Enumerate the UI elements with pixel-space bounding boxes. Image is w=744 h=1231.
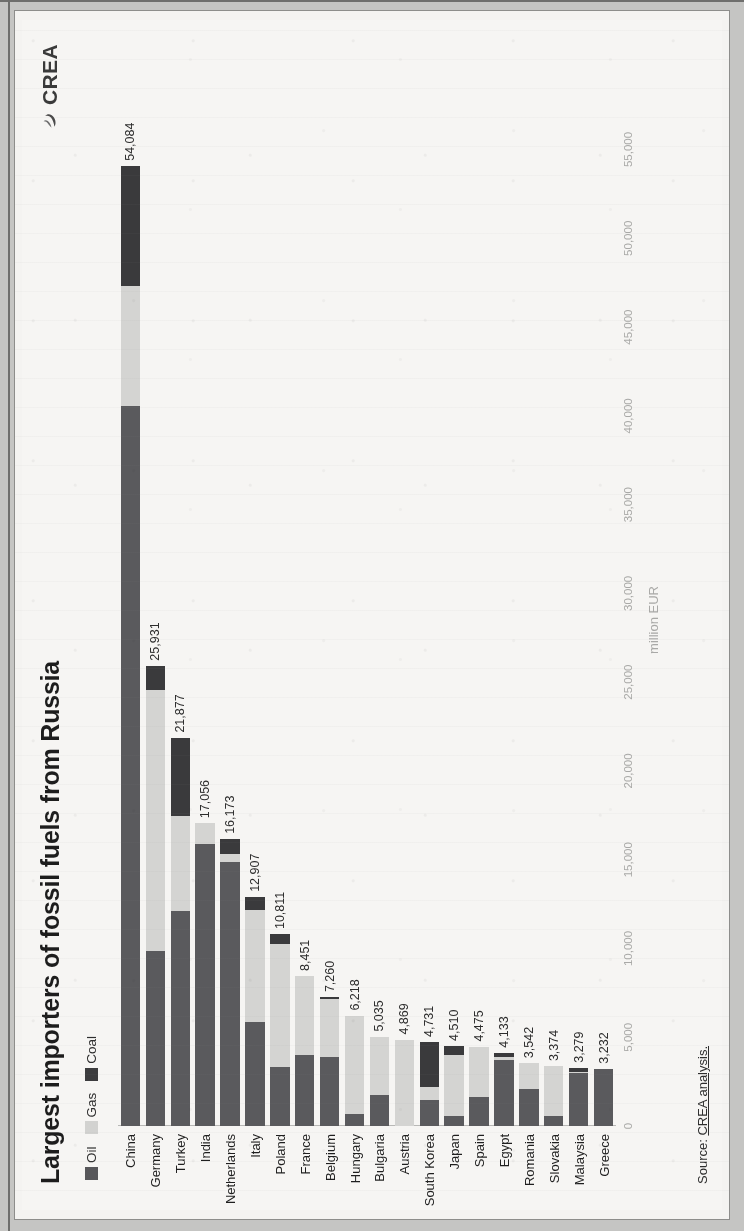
bar-row[interactable]: Malaysia3,279: [569, 1068, 588, 1126]
legend-label-oil: Oil: [84, 1147, 99, 1164]
bar-value-label: 3,279: [572, 1032, 586, 1063]
bar-segment-oil: [420, 1100, 439, 1126]
chart-legend: Oil Gas Coal: [84, 1029, 99, 1180]
axis-tick-label: 25,000: [622, 665, 634, 700]
bar-segment-gas: [220, 854, 239, 863]
category-label: India: [198, 1134, 213, 1162]
source-prefix: Source:: [695, 1136, 710, 1184]
plot-area: China54,084Germany25,931Turkey21,877Indi…: [118, 114, 616, 1126]
bar-value-label: 25,931: [148, 622, 162, 660]
category-label: Turkey: [173, 1134, 188, 1173]
axis-tick-label: 20,000: [622, 753, 634, 788]
category-label: Austria: [397, 1134, 412, 1174]
bar-row[interactable]: South Korea4,731: [420, 1042, 439, 1126]
page-title: Largest importers of fossil fuels from R…: [36, 661, 65, 1184]
bar-row[interactable]: Slovakia3,374: [544, 1066, 563, 1126]
category-label: Greece: [596, 1134, 611, 1177]
bar-segment-coal: [494, 1053, 513, 1057]
crea-logo: CREA: [38, 44, 62, 130]
bar-segment-gas: [395, 1040, 414, 1126]
axis-tick-label: 45,000: [622, 309, 634, 344]
bar-segment-gas: [320, 999, 339, 1058]
category-label: Spain: [472, 1134, 487, 1167]
scanned-page-background: Largest importers of fossil fuels from R…: [0, 0, 744, 1231]
bar-segment-oil: [444, 1116, 463, 1126]
category-label: Bulgaria: [372, 1134, 387, 1182]
bar-segment-oil: [220, 862, 239, 1126]
category-label: Malaysia: [571, 1134, 586, 1185]
bar-row[interactable]: Egypt4,133: [494, 1053, 513, 1126]
bar-segment-coal: [320, 997, 339, 999]
category-label: Hungary: [347, 1134, 362, 1183]
legend-label-coal: Coal: [84, 1036, 99, 1064]
value-axis-ticks: 05,00010,00015,00020,00025,00030,00035,0…: [622, 114, 642, 1126]
bar-row[interactable]: Bulgaria5,035: [370, 1037, 389, 1126]
bar-segment-oil: [494, 1060, 513, 1126]
bar-segment-oil: [519, 1089, 538, 1126]
bar-row[interactable]: Belgium7,260: [320, 997, 339, 1126]
axis-tick-label: 30,000: [622, 576, 634, 611]
category-label: Romania: [521, 1134, 536, 1186]
bar-value-label: 4,731: [422, 1006, 436, 1037]
bar-row[interactable]: Romania3,542: [519, 1063, 538, 1126]
category-label: Italy: [247, 1134, 262, 1158]
bar-segment-gas: [494, 1057, 513, 1060]
bar-segment-gas: [345, 1016, 364, 1115]
bar-value-label: 3,374: [547, 1030, 561, 1061]
bar-row[interactable]: Japan4,510: [444, 1046, 463, 1126]
axis-tick-label: 50,000: [622, 221, 634, 256]
bar-row[interactable]: China54,084: [121, 166, 140, 1126]
bar-segment-gas: [295, 976, 314, 1055]
bar-row[interactable]: France8,451: [295, 976, 314, 1126]
bar-value-label: 6,218: [348, 979, 362, 1010]
bar-row[interactable]: Spain4,475: [469, 1047, 488, 1126]
bar-row[interactable]: Turkey21,877: [171, 738, 190, 1126]
bar-row[interactable]: Greece3,232: [594, 1069, 613, 1126]
bar-segment-oil: [345, 1114, 364, 1126]
bar-segment-coal: [420, 1042, 439, 1087]
legend-item-oil[interactable]: Oil: [84, 1147, 99, 1181]
page-edge-left: [8, 0, 10, 1231]
bar-row[interactable]: Hungary6,218: [345, 1016, 364, 1126]
category-label: Netherlands: [223, 1134, 238, 1204]
axis-tick-label: 55,000: [622, 132, 634, 167]
bar-segment-coal: [171, 738, 190, 816]
bar-row[interactable]: Austria4,869: [395, 1040, 414, 1126]
bar-segment-coal: [121, 166, 140, 286]
bar-value-label: 4,869: [397, 1003, 411, 1034]
bar-segment-oil: [295, 1055, 314, 1126]
bar-row[interactable]: India17,056: [195, 823, 214, 1126]
category-label: Slovakia: [546, 1134, 561, 1183]
source-link[interactable]: CREA analysis.: [695, 1046, 710, 1136]
bar-row[interactable]: Germany25,931: [146, 666, 165, 1126]
axis-tick-label: 40,000: [622, 398, 634, 433]
bar-row[interactable]: Italy12,907: [245, 897, 264, 1126]
bar-segment-coal: [444, 1046, 463, 1055]
bar-segment-oil: [469, 1097, 488, 1126]
legend-item-gas[interactable]: Gas: [84, 1093, 99, 1135]
bar-segment-gas: [245, 910, 264, 1022]
bar-segment-oil: [195, 844, 214, 1126]
bar-segment-coal: [146, 666, 165, 691]
bar-row[interactable]: Poland10,811: [270, 934, 289, 1126]
value-axis-baseline: [118, 1125, 616, 1126]
category-label: Japan: [447, 1134, 462, 1169]
chart-figure: Largest importers of fossil fuels from R…: [22, 20, 722, 1210]
bar-segment-coal: [270, 934, 289, 944]
bar-segment-oil: [594, 1069, 613, 1126]
legend-swatch-gas-icon: [85, 1122, 98, 1135]
bar-row[interactable]: Netherlands16,173: [220, 839, 239, 1126]
bar-value-label: 21,877: [173, 694, 187, 732]
legend-item-coal[interactable]: Coal: [84, 1036, 99, 1081]
crea-swirl-icon: [41, 111, 60, 130]
bar-segment-gas: [444, 1055, 463, 1116]
chart-page: Largest importers of fossil fuels from R…: [14, 10, 730, 1220]
bar-value-label: 12,907: [248, 854, 262, 892]
category-label: Poland: [272, 1134, 287, 1174]
bar-value-label: 3,232: [597, 1032, 611, 1063]
axis-tick-label: 0: [622, 1123, 634, 1129]
page-edge-top: [0, 0, 744, 2]
bar-segment-coal: [220, 839, 239, 854]
legend-swatch-oil-icon: [85, 1167, 98, 1180]
bar-value-label: 4,510: [447, 1010, 461, 1041]
